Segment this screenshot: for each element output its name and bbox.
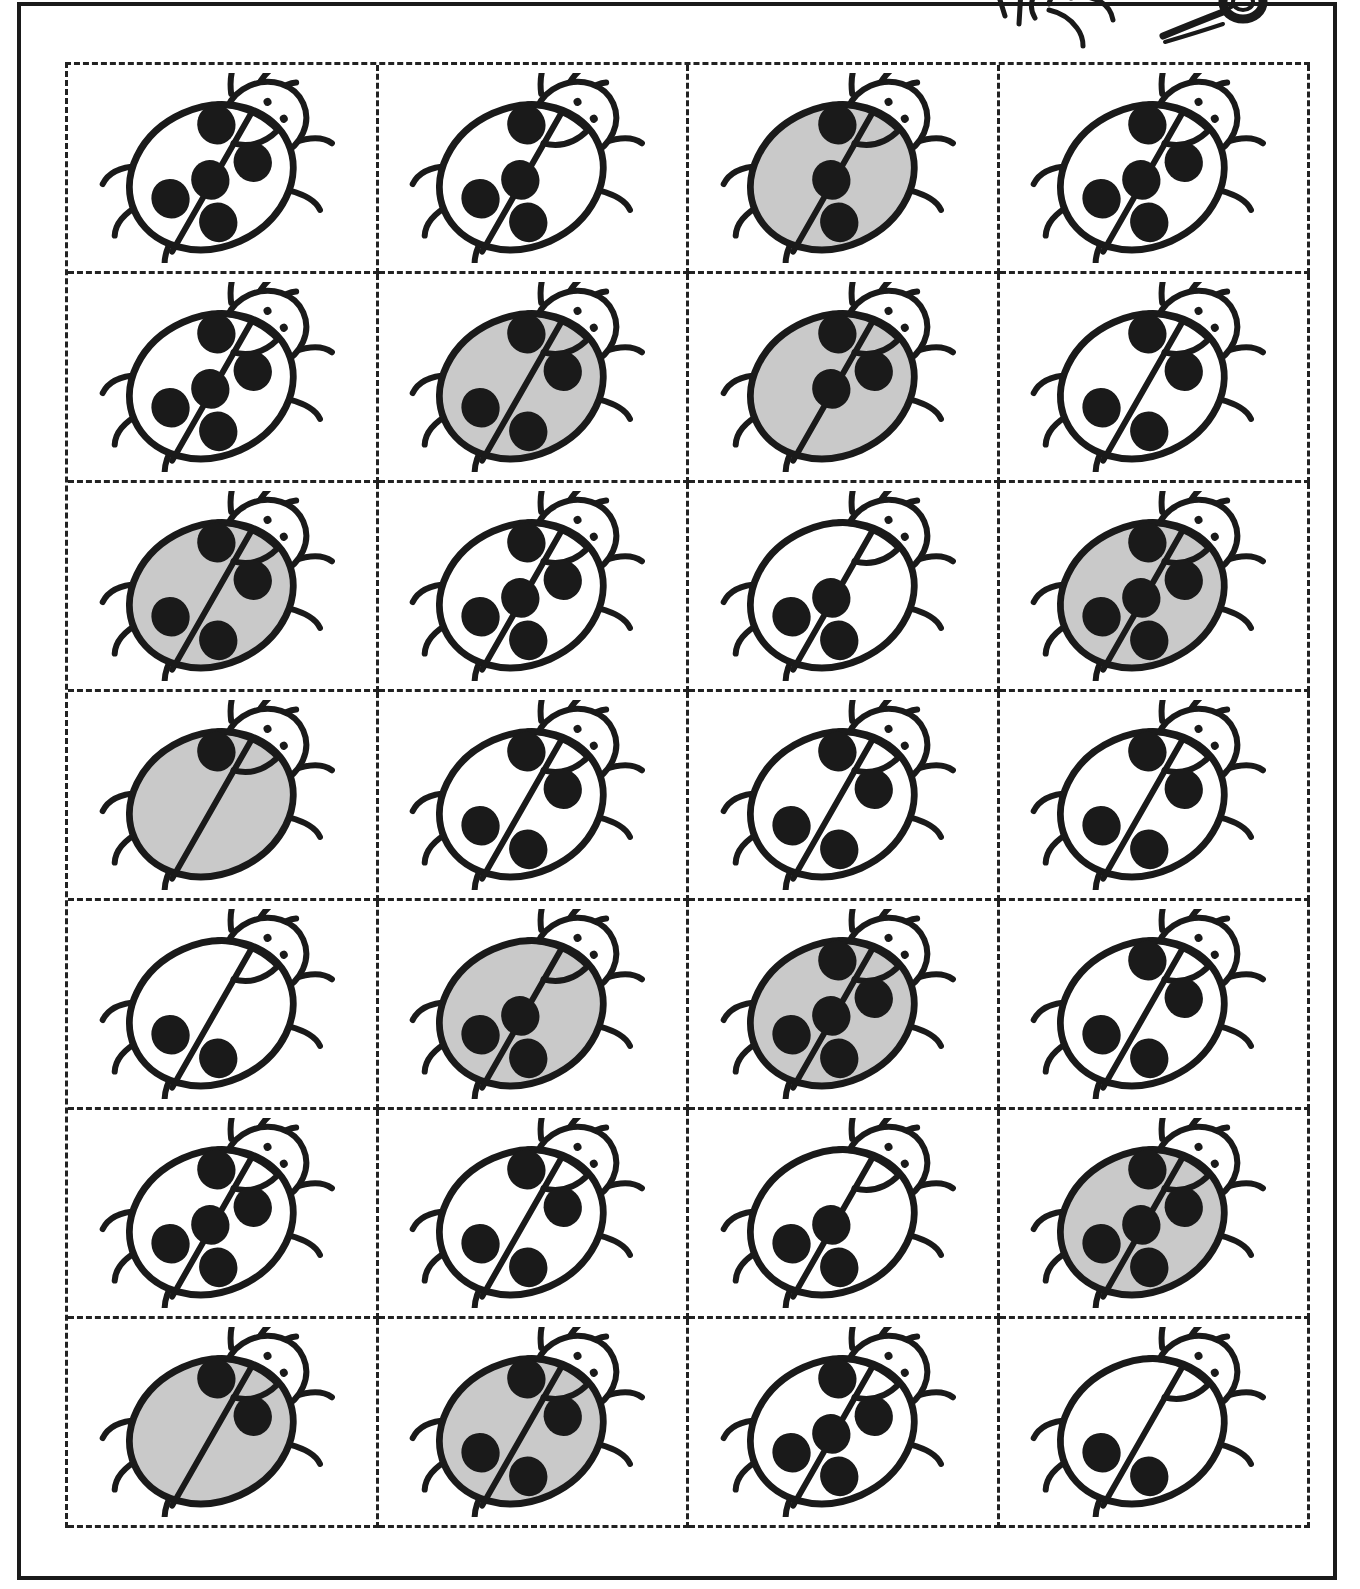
ladybug-illustration [86, 73, 358, 263]
ladybug-illustration [1017, 73, 1289, 263]
ladybug-illustration [1017, 491, 1289, 681]
ladybug-illustration [396, 73, 668, 263]
ladybug-illustration [1017, 282, 1289, 472]
cut-out-card[interactable] [1000, 1319, 1311, 1528]
cut-out-card[interactable] [379, 65, 690, 274]
cut-out-card[interactable] [1000, 1110, 1311, 1319]
cut-out-card[interactable] [689, 901, 1000, 1110]
cut-out-card[interactable] [379, 692, 690, 901]
cut-out-card[interactable] [68, 692, 379, 901]
cut-out-card[interactable] [379, 274, 690, 483]
cut-out-card[interactable] [68, 274, 379, 483]
cut-out-card[interactable] [379, 1319, 690, 1528]
ladybug-illustration [396, 700, 668, 890]
ladybug-illustration [1017, 1327, 1289, 1517]
ladybug-illustration [86, 282, 358, 472]
cut-out-card[interactable] [689, 1319, 1000, 1528]
ladybug-illustration [707, 1327, 979, 1517]
cut-out-card[interactable] [1000, 483, 1311, 692]
ladybug-illustration [86, 1327, 358, 1517]
ladybug-illustration [707, 491, 979, 681]
ladybug-illustration [707, 909, 979, 1099]
cut-out-card[interactable] [379, 483, 690, 692]
ladybug-illustration [1017, 909, 1289, 1099]
ladybug-illustration [396, 1327, 668, 1517]
cut-out-card[interactable] [689, 692, 1000, 901]
ladybug-illustration [86, 700, 358, 890]
cut-out-card[interactable] [68, 901, 379, 1110]
ladybug-illustration [1017, 700, 1289, 890]
ladybug-illustration [707, 73, 979, 263]
ladybug-illustration [86, 909, 358, 1099]
cut-out-card[interactable] [689, 1110, 1000, 1319]
ladybug-illustration [707, 1118, 979, 1308]
cut-out-card[interactable] [689, 483, 1000, 692]
cut-out-card[interactable] [1000, 274, 1311, 483]
cut-out-card[interactable] [689, 65, 1000, 274]
ladybug-illustration [1017, 1118, 1289, 1308]
cut-out-card[interactable] [1000, 692, 1311, 901]
cut-out-card[interactable] [68, 483, 379, 692]
cut-out-card[interactable] [1000, 901, 1311, 1110]
cut-out-card[interactable] [68, 65, 379, 274]
ladybug-illustration [396, 282, 668, 472]
ladybug-illustration [396, 1118, 668, 1308]
ladybug-illustration [707, 282, 979, 472]
cut-out-card[interactable] [1000, 65, 1311, 274]
cut-out-card[interactable] [68, 1319, 379, 1528]
cut-out-card[interactable] [379, 1110, 690, 1319]
worksheet-border [17, 2, 1337, 1580]
ladybug-illustration [396, 909, 668, 1099]
cut-out-card[interactable] [68, 1110, 379, 1319]
ladybug-illustration [707, 700, 979, 890]
cut-out-card[interactable] [689, 274, 1000, 483]
ladybug-illustration [86, 1118, 358, 1308]
cut-out-card[interactable] [379, 901, 690, 1110]
cut-out-card-grid [65, 62, 1310, 1528]
ladybug-illustration [396, 491, 668, 681]
ladybug-illustration [86, 491, 358, 681]
